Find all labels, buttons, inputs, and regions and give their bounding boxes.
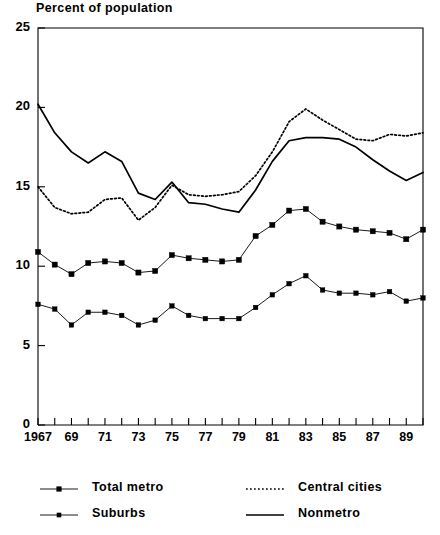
legend-swatch-solid-marker: [36, 478, 82, 500]
y-axis-tick-label: 15: [2, 178, 30, 193]
chart-figure: Percent of population 0510152025 1967697…: [0, 0, 440, 535]
y-axis-tick-label: 5: [2, 337, 30, 352]
series-central-cities: [38, 109, 423, 220]
x-axis-ticks: [38, 418, 423, 425]
legend-swatch-dotted: [242, 478, 288, 500]
y-axis-tick-label: 20: [2, 98, 30, 113]
legend-swatch-solid: [242, 504, 288, 526]
legend-label: Total metro: [92, 480, 164, 494]
x-axis-tick-label: 89: [386, 430, 426, 444]
y-axis-ticks: [38, 28, 45, 425]
y-axis-tick-label: 0: [2, 416, 30, 431]
chart-legend: Total metroSuburbsCentral citiesNonmetro: [0, 476, 440, 534]
series-total-metro: [35, 206, 425, 276]
plot-frame: [38, 28, 423, 425]
y-axis-tick-label: 10: [2, 257, 30, 272]
legend-label: Central cities: [298, 480, 382, 494]
legend-swatch-solid-smallmarker: [36, 504, 82, 526]
y-axis-tick-label: 25: [2, 19, 30, 34]
series-nonmetro: [38, 104, 423, 212]
legend-label: Nonmetro: [298, 506, 360, 520]
data-series-group: [35, 104, 425, 327]
plot-area: [0, 0, 440, 470]
series-suburbs: [36, 273, 426, 327]
legend-label: Suburbs: [92, 506, 146, 520]
